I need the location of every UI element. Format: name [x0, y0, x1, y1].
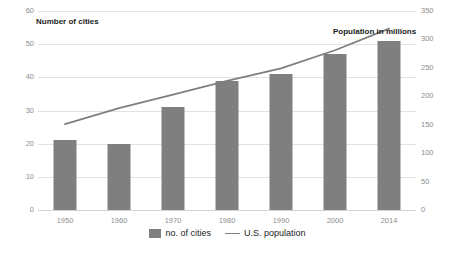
chart-legend: no. of citiesU.S. population	[0, 228, 455, 238]
right-axis-tick-label: 0	[421, 206, 425, 214]
legend-item[interactable]: U.S. population	[225, 228, 306, 238]
right-axis-tick-label: 350	[421, 7, 434, 15]
x-axis-tick-label: 1990	[273, 216, 290, 225]
x-axis-tick-label: 1980	[219, 216, 236, 225]
left-axis-tick-label: 10	[26, 173, 34, 181]
legend-label: no. of cities	[165, 228, 211, 238]
plot-area	[38, 11, 416, 210]
x-axis-tick-label: 2000	[327, 216, 344, 225]
x-axis-tick-label: 2014	[381, 216, 398, 225]
right-axis-tick-label: 100	[421, 149, 434, 157]
x-axis-tick-label: 1950	[57, 216, 74, 225]
left-axis-tick-label: 0	[30, 206, 34, 214]
x-axis-tick-label: 1960	[111, 216, 128, 225]
legend-bar-swatch-icon	[149, 229, 161, 238]
legend-label: U.S. population	[244, 228, 306, 238]
us-population-polyline	[65, 29, 389, 125]
chart-container: 0102030405060 050100150200250300350 1950…	[0, 0, 455, 255]
legend-item[interactable]: no. of cities	[149, 228, 211, 238]
right-axis-tick-label: 250	[421, 64, 434, 72]
left-axis-tick-label: 60	[26, 7, 34, 15]
right-axis-title: Population in millions	[333, 27, 416, 36]
left-axis-tick-label: 30	[26, 107, 34, 115]
legend-line-swatch-icon	[225, 233, 240, 234]
right-axis-tick-label: 200	[421, 92, 434, 100]
x-axis-tick-label: 1970	[165, 216, 182, 225]
gridline	[38, 210, 416, 211]
right-axis-tick-label: 300	[421, 35, 434, 43]
left-axis-tick-label: 50	[26, 40, 34, 48]
line-series-us-population	[38, 11, 416, 210]
left-axis-title: Number of cities	[36, 17, 99, 26]
left-axis-tick-label: 20	[26, 140, 34, 148]
right-axis-tick-label: 150	[421, 121, 434, 129]
left-axis-tick-label: 40	[26, 73, 34, 81]
right-axis-tick-label: 50	[421, 178, 429, 186]
